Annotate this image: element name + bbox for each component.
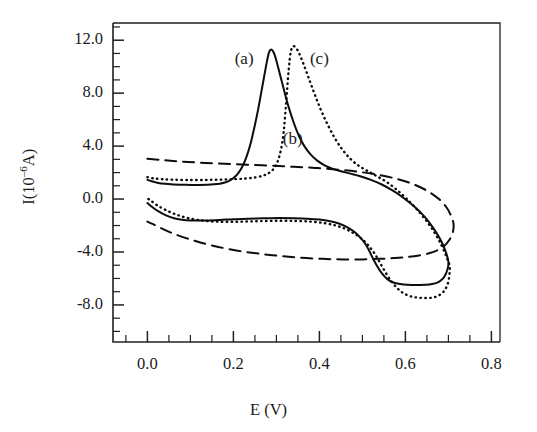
x-tick-label: 0.2 [203, 354, 263, 374]
y-tick-label: -4.0 [35, 241, 103, 261]
plot-frame [113, 23, 500, 342]
curve-c [147, 46, 449, 298]
series-label-b: (b) [271, 129, 315, 149]
y-tick-label: 12.0 [35, 29, 103, 49]
y-tick-label: -8.0 [35, 294, 103, 314]
frame-top-right [113, 23, 500, 342]
y-axis-title-lead: I(10 [19, 177, 38, 205]
curve-b [147, 159, 453, 260]
axis-lines [113, 23, 500, 342]
y-axis-title-exponent: –6 [17, 166, 29, 177]
x-tick-label: 0.6 [375, 354, 435, 374]
y-tick-label: 0.0 [35, 188, 103, 208]
y-tick-label: 4.0 [35, 135, 103, 155]
plot-area [0, 0, 537, 432]
data-curves [147, 46, 453, 298]
x-tick-label: 0.0 [117, 354, 177, 374]
y-tick-label: 8.0 [35, 82, 103, 102]
y-axis-title: I(10–6A) [17, 87, 39, 267]
x-tick-label: 0.4 [289, 354, 349, 374]
x-axis-title: E (V) [0, 400, 537, 420]
series-label-c: (c) [297, 49, 341, 69]
x-axis-title-text: E (V) [250, 400, 287, 419]
x-tick-label: 0.8 [461, 354, 521, 374]
y-axis-title-trail: A) [19, 149, 38, 166]
cyclic-voltammogram-figure: 0.00.20.40.60.8 12.08.04.00.0-4.0-8.0 E … [0, 0, 537, 432]
series-label-a: (a) [222, 49, 266, 69]
